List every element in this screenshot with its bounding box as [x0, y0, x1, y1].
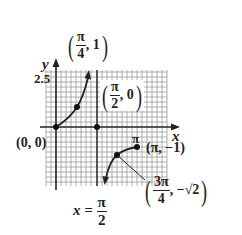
point-origin [53, 124, 59, 130]
x-tick-pi-label: π [132, 132, 139, 145]
y-axis-arrow-icon [53, 58, 60, 67]
y-axis-label: y [42, 57, 49, 72]
asymptote-label: x = π2 [73, 195, 107, 228]
point-label-3pi-over-4: (3π4, −√2) [143, 175, 209, 206]
leader-line [117, 155, 145, 180]
point-label-pi: (π, −1) [146, 141, 185, 155]
point-pi-over-2 [94, 124, 100, 130]
point-pi-over-4 [74, 104, 80, 110]
point-label-pi-over-4: (π4, 1) [66, 30, 110, 61]
curve-up-arrow-icon [85, 70, 92, 80]
curve-down-arrow-icon [103, 176, 110, 185]
origin-label: (0, 0) [16, 136, 46, 150]
point-3pi-over-4 [114, 152, 120, 158]
point-label-pi-over-2: (π2, 0) [100, 80, 144, 111]
y-tick-label: 2.5 [34, 72, 50, 85]
